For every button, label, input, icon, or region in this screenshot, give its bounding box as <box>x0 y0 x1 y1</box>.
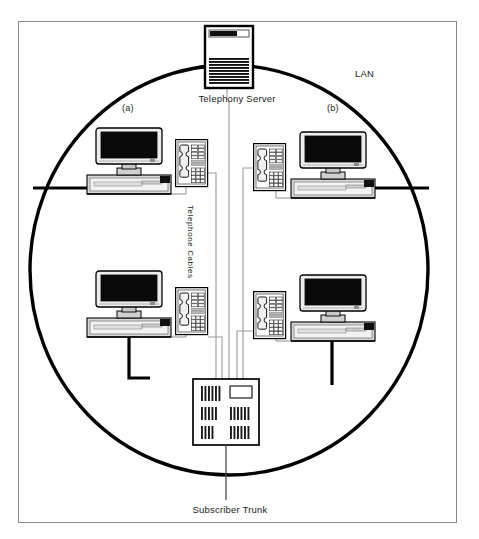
telephony-server-label: Telephony Server <box>187 93 287 104</box>
network-diagram-figure: Telephony Server Subscriber Trunk LAN (a… <box>0 0 479 539</box>
pbx-switch-icon <box>193 379 259 445</box>
workstation-a-top <box>87 128 171 194</box>
subscriber-trunk-label: Subscriber Trunk <box>175 504 285 515</box>
station-a-label: (a) <box>122 103 134 113</box>
lan-label: LAN <box>355 68 374 79</box>
workstation-b-bottom <box>291 275 375 341</box>
telephone-a-top <box>176 140 208 187</box>
telephone-b-bottom <box>254 292 286 339</box>
workstation-a-bottom <box>87 271 171 337</box>
telephony-server-icon <box>205 26 253 88</box>
telephone-cables-label: Telephone Cables <box>186 205 195 305</box>
workstation-b-top <box>291 132 375 198</box>
station-b-label: (b) <box>327 103 339 113</box>
diagram-canvas <box>0 0 479 539</box>
telephone-b-top <box>254 144 286 191</box>
